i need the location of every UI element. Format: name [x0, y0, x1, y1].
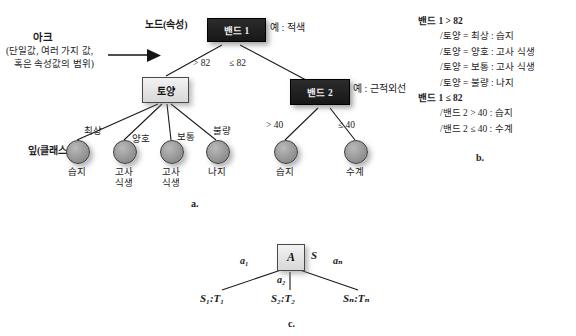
rule-group-1-line-1: /토양 = 최상 : 습지 — [418, 29, 535, 44]
node-attribute-label: 노드(속성) — [145, 19, 188, 31]
arc-label-a1: a₁ — [240, 255, 249, 267]
node-band1-label: 밴드 1 — [224, 23, 250, 37]
leaf-label-2-line1: 고사 — [104, 167, 144, 178]
leaf-class-label: 잎(클래스) — [28, 145, 71, 157]
leaf-c-label-1: S₁:T₁ — [200, 292, 224, 305]
leaf-c-label-2: S₂:T₂ — [271, 292, 295, 305]
node-soil-label: 토양 — [157, 83, 175, 98]
figure-b-caption: b. — [476, 152, 484, 163]
node-c-side-label: S — [311, 249, 317, 262]
arc-pointer-arrow — [108, 49, 161, 62]
node-band2-label: 밴드 2 — [307, 85, 333, 99]
branch-label-band1-right: ≤ 82 — [229, 58, 246, 69]
edge-soil-leaf3 — [167, 104, 171, 140]
leaf-node-1[interactable] — [66, 140, 90, 164]
node-c-root-label: A — [287, 250, 295, 265]
rule-group-1-line-2: /토양 = 양호 : 고사 식생 — [418, 45, 535, 60]
leaf-node-3[interactable] — [160, 140, 184, 164]
branch-label-soil-2: 양호 — [132, 134, 150, 145]
arc-title-label: 아크 — [33, 32, 53, 44]
leaf-label-1: 습지 — [57, 167, 97, 178]
leaf-label-3: 고사 식생 — [151, 167, 191, 189]
leaf-label-5: 습지 — [265, 167, 305, 178]
rule-group-1-head: 밴드 1 > 82 — [418, 14, 535, 29]
rule-group-2-head: 밴드 1 ≤ 82 — [418, 91, 535, 106]
node-soil[interactable]: 토양 — [142, 77, 189, 103]
arc-label-a2: a₂ — [277, 274, 286, 286]
leaf-label-6: 수계 — [335, 167, 375, 178]
leaf-label-6-line1: 수계 — [335, 167, 375, 178]
leaf-label-4: 나지 — [197, 167, 237, 178]
branch-label-soil-4: 불량 — [213, 126, 231, 137]
leaf-label-4-line1: 나지 — [197, 167, 237, 178]
edge-c-left — [222, 269, 284, 290]
branch-label-band2-left: > 40 — [266, 120, 283, 131]
edge-band2-leaf5 — [285, 108, 318, 140]
figure-b-rules: 밴드 1 > 82 /토양 = 최상 : 습지 /토양 = 양호 : 고사 식생… — [418, 14, 535, 137]
figure-c-caption: c. — [288, 318, 295, 329]
example-band2-label: 예 : 근적외선 — [353, 83, 406, 95]
leaf-node-5[interactable] — [274, 140, 298, 164]
leaf-node-2[interactable] — [113, 140, 137, 164]
branch-label-soil-3: 보통 — [177, 132, 195, 143]
node-band1[interactable]: 밴드 1 — [207, 18, 266, 42]
leaf-label-2-line2: 식생 — [104, 178, 144, 189]
leaf-node-4[interactable] — [206, 140, 230, 164]
example-band1-label: 예 : 적색 — [270, 22, 305, 34]
figure-a-caption: a. — [191, 198, 199, 209]
rule-group-1-line-4: /토양 = 불량 : 나지 — [418, 76, 535, 91]
node-c-root[interactable]: A — [277, 244, 305, 271]
edge-c-right — [297, 269, 358, 290]
rule-group-2-line-1: /밴드 2 > 40 : 습지 — [418, 106, 535, 121]
leaf-c-label-3: Sₙ:Tₙ — [343, 292, 370, 305]
leaf-label-1-line1: 습지 — [57, 167, 97, 178]
branch-label-band1-left: > 82 — [193, 58, 210, 69]
arc-desc-line2: 혹은 속성값의 범위) — [14, 59, 94, 70]
rule-group-1-line-3: /토양 = 보통 : 고사 식생 — [418, 60, 535, 75]
leaf-label-3-line2: 식생 — [151, 178, 191, 189]
branch-label-soil-1: 최상 — [84, 126, 102, 137]
rule-group-2-line-2: /밴드 2 ≤ 40 : 수계 — [418, 122, 535, 137]
leaf-label-3-line1: 고사 — [151, 167, 191, 178]
leaf-node-6[interactable] — [344, 140, 368, 164]
node-band2[interactable]: 밴드 2 — [290, 79, 350, 105]
figure-panel: 아크 (단일값, 여러 가지 값, 혹은 속성값의 범위) 노드(속성) 잎(클… — [0, 0, 576, 336]
edge-band1-band2 — [240, 45, 306, 80]
arc-label-an: aₙ — [333, 255, 343, 267]
branch-label-band2-right: ≤ 40 — [338, 120, 355, 131]
leaf-label-5-line1: 습지 — [265, 167, 305, 178]
leaf-label-2: 고사 식생 — [104, 167, 144, 189]
arc-desc-line1: (단일값, 여러 가지 값, — [6, 46, 93, 57]
